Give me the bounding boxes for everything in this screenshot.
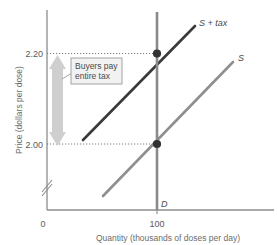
equilibrium-with-tax-marker[interactable] [153,49,161,57]
ytick-label-200: 2.00 [25,140,43,150]
y-axis-title: Price (dollars per dose) [14,66,24,154]
supply-curve-line[interactable] [103,62,233,196]
ytick-label-220: 2.20 [25,49,43,59]
supply-demand-chart: Buyers pay entire tax S + tax S D 2.20 2… [0,0,277,245]
buyers-pay-tax-arrow [49,55,66,146]
equilibrium-no-tax-marker[interactable] [153,140,161,148]
axis-titles-group: Price (dollars per dose) Quantity (thous… [14,66,240,243]
annotation-line-2: entire tax [75,71,111,81]
supply-curve-group [103,62,233,196]
xtick-label-100: 100 [149,219,164,229]
origin-label: 0 [40,219,45,229]
annotation-connector-line [62,73,72,79]
x-axis-title: Quantity (thousands of doses per day) [96,233,240,243]
label-demand: D [161,199,168,209]
label-supply: S [238,53,244,63]
label-supply-plus-tax: S + tax [199,18,228,28]
buyers-pay-tax-annotation: Buyers pay entire tax [62,58,122,84]
chart-figure: Buyers pay entire tax S + tax S D 2.20 2… [0,0,277,245]
annotation-line-1: Buyers pay [75,61,118,71]
